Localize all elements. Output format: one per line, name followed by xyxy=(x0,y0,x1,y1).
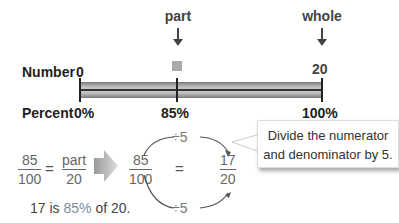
percent-tick-100: 100% xyxy=(302,105,338,121)
tick-part xyxy=(176,78,178,102)
part-arrow-icon xyxy=(177,28,179,40)
caption-highlight: 85% xyxy=(63,200,91,216)
number-line-center-line xyxy=(79,89,322,91)
part-unknown-marker xyxy=(172,61,182,71)
right-arrow-icon xyxy=(94,150,118,182)
whole-arrow-icon xyxy=(321,28,323,40)
top-divide-label: ÷5 xyxy=(172,129,187,145)
number-row-label: Number xyxy=(22,64,75,80)
fraction-85-100: 85 100 xyxy=(18,152,41,187)
percent-tick-0: 0% xyxy=(74,105,94,121)
tick-start xyxy=(79,78,81,102)
percent-tick-85: 85% xyxy=(161,105,189,121)
equals-sign: = xyxy=(45,160,54,177)
part-label: part xyxy=(160,8,196,24)
whole-label: whole xyxy=(298,8,346,24)
percent-row-label: Percent xyxy=(22,105,73,121)
number-tick-20: 20 xyxy=(312,61,328,77)
bottom-divide-label: ÷5 xyxy=(172,200,187,216)
fraction-part-20: part 20 xyxy=(62,152,86,187)
callout-line-1: Divide the numerator xyxy=(258,126,398,145)
callout-box: Divide the numerator and denominator by … xyxy=(257,120,399,168)
tick-whole xyxy=(321,78,323,102)
callout-line-2: and denominator by 5. xyxy=(258,145,398,164)
caption: 17 is 85% of 20. xyxy=(30,200,130,216)
